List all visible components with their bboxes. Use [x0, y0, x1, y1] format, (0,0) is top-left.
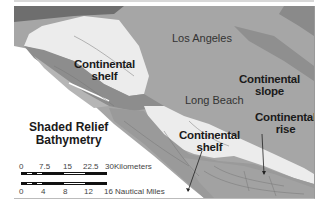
map-relief-graphic — [14, 6, 314, 198]
label-rise: Continental rise — [255, 111, 315, 135]
nm-bar — [21, 182, 107, 185]
label-shelf-north: Continental shelf — [74, 58, 135, 82]
bathymetry-map: Los Angeles Long Beach Continental shelf… — [14, 6, 315, 199]
map-title: Shaded Relief Bathymetry — [29, 121, 108, 147]
km-bar — [21, 172, 107, 175]
label-slope: Continental slope — [239, 73, 300, 97]
label-long-beach: Long Beach — [185, 94, 244, 106]
label-shelf-south: Continental shelf — [179, 129, 240, 153]
label-los-angeles: Los Angeles — [172, 32, 232, 44]
top-rule — [14, 0, 314, 2]
